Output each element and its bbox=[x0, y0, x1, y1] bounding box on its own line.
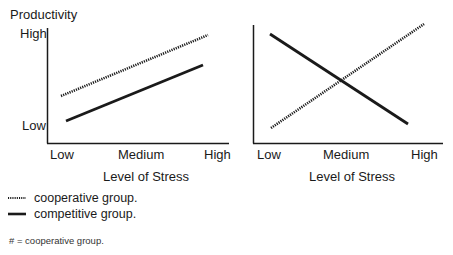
left-x-tick-low: Low bbox=[50, 148, 74, 161]
right-x-tick-low: Low bbox=[257, 148, 281, 161]
legend-competitive-label: competitive group. bbox=[34, 208, 136, 221]
footnote: # = cooperative group. bbox=[9, 236, 104, 246]
right-cooperative-line bbox=[271, 24, 424, 128]
left-x-axis-title: Level of Stress bbox=[103, 170, 189, 183]
left-competitive-line bbox=[66, 65, 203, 121]
legend-cooperative-label: cooperative group. bbox=[34, 192, 138, 205]
y-axis-title: Productivity bbox=[10, 8, 77, 21]
left-chart-axes bbox=[47, 28, 229, 144]
right-x-tick-medium: Medium bbox=[323, 148, 369, 161]
right-x-axis-title: Level of Stress bbox=[309, 170, 395, 183]
left-x-tick-medium: Medium bbox=[118, 148, 164, 161]
left-cooperative-line bbox=[61, 35, 208, 96]
left-x-tick-high: High bbox=[204, 148, 231, 161]
y-tick-high: High bbox=[20, 27, 47, 40]
right-x-tick-high: High bbox=[411, 148, 438, 161]
y-tick-low: Low bbox=[22, 119, 46, 132]
